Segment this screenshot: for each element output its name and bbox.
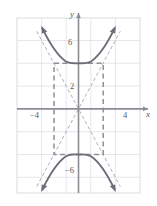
y-axis-arrow: [76, 13, 81, 18]
y-tick-label-2: 2: [70, 82, 74, 91]
x-tick-label-negative-4: −4: [30, 111, 39, 120]
coordinate-plane: [0, 0, 157, 206]
y-tick-label-negative-6: −6: [65, 166, 74, 175]
hyperbola-figure: y x −4 4 6 2 −6: [0, 0, 157, 206]
x-tick-label-4: 4: [123, 111, 127, 120]
y-tick-label-6: 6: [68, 38, 72, 47]
y-axis-label: y: [70, 10, 74, 19]
x-axis-label: x: [146, 110, 150, 119]
